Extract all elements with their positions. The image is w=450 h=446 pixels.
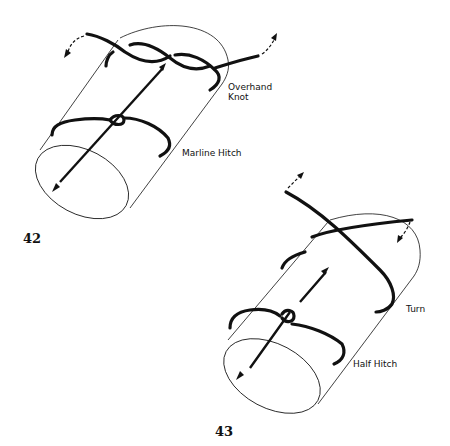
marline-hitch-rope xyxy=(52,116,170,157)
figure-number-42: 42 xyxy=(23,231,41,246)
knot-illustration: Overhand Knot Marline Hitch 42 xyxy=(0,0,450,446)
figure-42: Overhand Knot Marline Hitch 42 xyxy=(23,26,277,246)
figure-number-43: 43 xyxy=(215,424,233,439)
cylinder-43 xyxy=(211,214,420,429)
figure-43: Turn Half Hitch 43 xyxy=(211,172,425,439)
turn-rope xyxy=(282,172,412,312)
label-overhand-line2: Knot xyxy=(228,92,249,102)
axis-arrow-42 xyxy=(52,63,166,192)
label-overhand-line1: Overhand xyxy=(228,82,272,92)
label-half-hitch: Half Hitch xyxy=(353,359,397,369)
label-marline-hitch: Marline Hitch xyxy=(182,148,242,158)
label-turn: Turn xyxy=(405,304,425,314)
axis-arrow-43 xyxy=(236,267,329,380)
